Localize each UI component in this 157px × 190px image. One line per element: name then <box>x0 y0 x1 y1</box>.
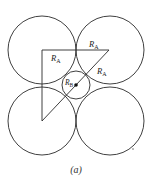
large-circle-bottom-right <box>76 87 144 155</box>
figure-caption: (a) <box>0 164 152 175</box>
small-circle-center-dot <box>74 83 78 87</box>
label-ra-left: RA <box>50 53 61 64</box>
label-ra-top: RA <box>88 39 99 50</box>
packing-diagram: RA RA RA RB <box>0 0 157 190</box>
stray-mark <box>132 148 133 149</box>
label-ra-diagonal: RA <box>96 66 107 77</box>
label-rb: RB <box>64 78 74 88</box>
